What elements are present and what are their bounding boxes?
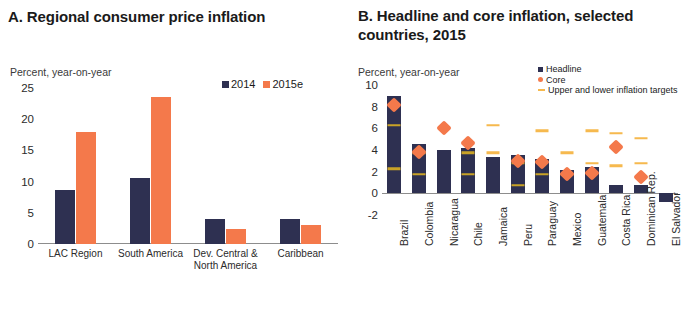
panel-b-target-dash [462,151,475,154]
panel-b-baseline [382,193,678,194]
panel-a-ytick: 20 [4,113,34,125]
panel-b-target-dash [487,124,500,127]
panel-b-target-dash [536,173,549,176]
panel-b-target-dash [635,162,648,165]
panel-a-bar [280,219,300,244]
panel-b-target-dash [585,162,598,165]
panel-b-xlabel: Brazil [398,220,410,246]
panel-b-ytick: -2 [354,209,378,221]
panel-b-target-dash [511,184,524,187]
panel-b-ytick: 2 [354,166,378,178]
panel-b-ytick: 8 [354,101,378,113]
figure-container: A. Regional consumer price inflation Per… [0,0,691,323]
panel-b-target-dash [536,130,549,133]
panel-a-bar [226,229,246,244]
panel-b-target-dash [388,124,401,127]
panel-a-ytick: 25 [4,82,34,94]
panel-a-axis-note: Percent, year-on-year [10,66,112,78]
panel-a-bar [55,190,75,244]
panel-b-target-dash [487,151,500,154]
panel-a-ytick: 5 [4,207,34,219]
panel-b-xlabel: Mexico [571,213,583,246]
panel-b-bar [486,157,500,194]
panel-a-bar [205,219,225,244]
panel-b-target-dash [635,137,648,140]
panel-b-xlabel: Dominican Rep. [645,171,657,246]
panel-b-xlabel: Colombia [423,202,435,246]
panel-b-axis-note: Percent, year-on-year [358,66,460,78]
panel-b-ytick: 4 [354,144,378,156]
panel-a-bar [151,97,171,244]
panel-b-target-dash [462,173,475,176]
panel-a-legend-swatch-icon [222,81,229,88]
panel-a-regional-inflation: A. Regional consumer price inflation Per… [0,0,350,323]
panel-b-xlabel: Paraguay [546,201,558,246]
panel-b-xlabel: Jamaica [497,207,509,246]
panel-a-title: A. Regional consumer price inflation [8,8,348,26]
panel-b-xlabel: Nicaragua [448,198,460,246]
panel-b-legend-label: Core [546,75,566,86]
panel-b-bar [609,185,623,194]
panel-b-target-dash [561,151,574,154]
panel-b-ytick: 10 [354,79,378,91]
panel-a-xlabel: Dev. Central & North America [188,248,263,272]
panel-a-legend-swatch-icon [263,81,270,88]
panel-b-ytick: 6 [354,122,378,134]
panel-b-bar [461,148,475,194]
panel-b-target-dash [388,168,401,171]
panel-b-core-marker [609,139,625,155]
panel-b-xlabel: El Salvador [670,192,682,246]
panel-b-xlabel: Guatemala [596,195,608,246]
panel-b-bar [437,150,451,193]
panel-b-ytick: 0 [354,187,378,199]
panel-b-xlabel: Peru [522,224,534,246]
panel-a-xlabel: Caribbean [263,248,338,260]
panel-b-legend-label: Headline [546,64,582,75]
panel-b-plot-area: -20246810 [382,85,678,215]
panel-a-bar [301,225,321,244]
panel-b-target-dash [413,173,426,176]
panel-b-title: B. Headline and core inflation, selected… [358,6,688,44]
panel-b-target-dash [610,164,623,167]
panel-b-legend-item: Headline [538,64,678,75]
panel-a-bar [76,132,96,244]
panel-a-plot-area: 0510152025 [38,88,338,244]
panel-a-xlabel: South America [113,248,188,260]
panel-b-legend-dot-icon [538,77,543,82]
panel-a-bar [130,178,150,244]
panel-a-ytick: 10 [4,176,34,188]
panel-b-legend-square-icon [538,67,543,72]
panel-b-headline-core-inflation: B. Headline and core inflation, selected… [350,0,691,323]
panel-a-xlabel: LAC Region [38,248,113,260]
panel-b-target-dash [610,132,623,135]
panel-b-core-marker [436,121,452,137]
panel-a-ytick: 15 [4,144,34,156]
panel-b-legend-item: Core [538,75,678,86]
panel-a-ytick: 0 [4,238,34,250]
panel-b-target-dash [585,130,598,133]
panel-b-xlabel: Chile [472,222,484,246]
panel-b-xlabel: Costa Rica [620,195,632,246]
